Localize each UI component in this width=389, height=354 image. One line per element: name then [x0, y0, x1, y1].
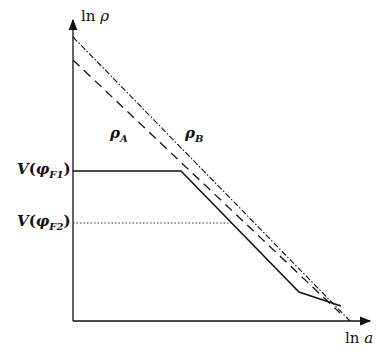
v-f1-phi: φ — [36, 160, 50, 178]
v-f2-close: ) — [63, 212, 70, 230]
v-f1-fn: V — [17, 160, 29, 178]
rho-a-label: ρA — [110, 124, 128, 144]
y-axis-label: ln ρ — [81, 7, 109, 25]
v-f2-open: ( — [29, 212, 36, 230]
potential-solid-line — [73, 171, 341, 306]
v-f1-open: ( — [29, 160, 36, 178]
v-f2-sub: F2 — [49, 221, 63, 232]
v-f2-fn: V — [17, 212, 29, 230]
rho-a-symbol: ρ — [110, 124, 120, 142]
diagram-canvas: ln ρ ln a ρA ρB V(φF1) V(φF2) — [0, 0, 389, 354]
v-f2-phi: φ — [36, 212, 50, 230]
y-axis-var: ρ — [100, 7, 109, 25]
x-axis-var: a — [364, 329, 373, 347]
v-f1-label: V(φF1) — [17, 160, 71, 180]
rho-a-sub: A — [120, 133, 128, 144]
rho-a-line — [73, 60, 340, 313]
x-axis-label: ln a — [345, 329, 373, 347]
rho-b-label: ρB — [185, 124, 203, 144]
rho-b-sub: B — [195, 133, 203, 144]
y-axis-fn: ln — [81, 7, 95, 25]
x-axis-fn: ln — [345, 329, 359, 347]
rho-b-line — [73, 37, 350, 321]
v-f2-label: V(φF2) — [17, 212, 71, 232]
v-f1-close: ) — [63, 160, 70, 178]
v-f1-sub: F1 — [49, 169, 63, 180]
rho-b-symbol: ρ — [185, 124, 195, 142]
